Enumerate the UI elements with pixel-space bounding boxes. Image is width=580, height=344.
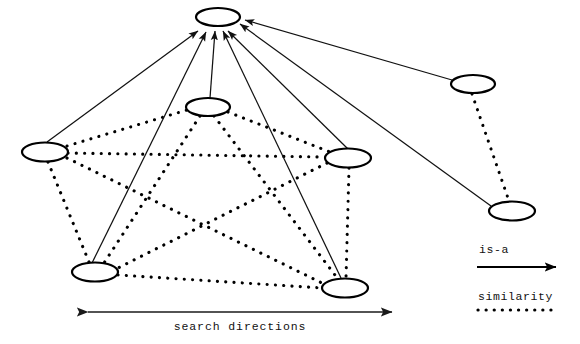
node-lowright[interactable] xyxy=(489,202,535,221)
similarity-edge-left-right xyxy=(68,153,325,157)
similarity-edge-midtop-botright xyxy=(214,116,338,279)
diagram-canvas: is-a similarity search directions xyxy=(0,0,580,344)
isa-edge-left-top xyxy=(47,31,198,142)
similarity-edge-upright-lowright xyxy=(472,94,509,201)
node-right[interactable] xyxy=(325,149,371,168)
search-directions-label: search directions xyxy=(174,320,307,333)
similarity-edge-right-botright xyxy=(346,168,349,278)
similarity-edge-midtop-right xyxy=(228,112,330,152)
legend: is-a similarity xyxy=(477,243,556,310)
node-upright[interactable] xyxy=(451,75,495,93)
legend-isa-label: is-a xyxy=(479,243,509,256)
isa-edge-botright-top xyxy=(223,31,341,278)
similarity-edge-group xyxy=(48,94,509,288)
node-left[interactable] xyxy=(22,143,68,162)
node-botright[interactable] xyxy=(322,279,368,298)
isa-edge-midtop-top xyxy=(210,31,215,98)
isa-edge-group xyxy=(47,20,491,278)
similarity-edge-botleft-botright xyxy=(118,275,322,288)
node-top[interactable] xyxy=(196,8,240,26)
similarity-edge-midtop-botleft xyxy=(104,116,200,263)
node-botleft[interactable] xyxy=(72,263,118,282)
similarity-edge-left-midtop xyxy=(67,110,187,146)
similarity-edge-left-botleft xyxy=(48,162,89,262)
search-directions-axis: search directions xyxy=(88,312,392,333)
semantic-network-figure: is-a similarity search directions xyxy=(0,0,580,344)
isa-edge-lowright-top xyxy=(240,24,491,206)
node-midtop[interactable] xyxy=(186,98,230,116)
similarity-edge-right-botleft xyxy=(116,163,327,269)
legend-similarity-label: similarity xyxy=(478,290,553,303)
